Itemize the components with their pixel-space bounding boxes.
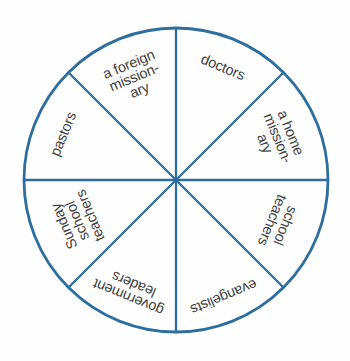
figure-spinner-wheel: doctors a home mission- ary school teach… <box>0 0 350 361</box>
wheel-graphic <box>0 0 350 361</box>
